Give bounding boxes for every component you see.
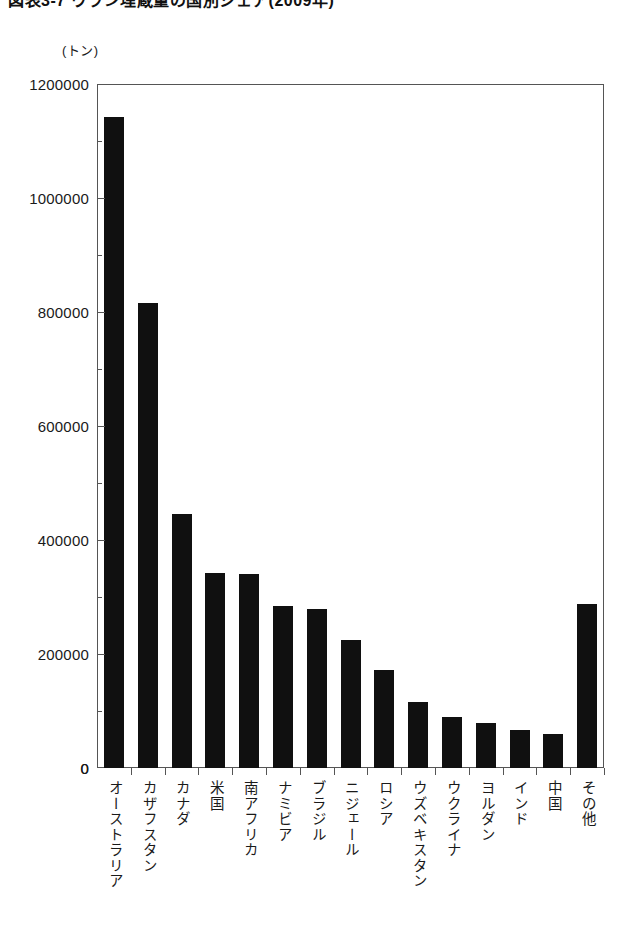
x-axis-tick-mark (469, 768, 470, 775)
bar (341, 640, 361, 768)
x-axis-tick-mark (266, 768, 267, 775)
x-axis-tick-mark (604, 768, 605, 775)
y-axis-minor-tick-mark (97, 369, 102, 370)
x-axis-tick-label: ブラジル (309, 780, 324, 842)
bar (543, 734, 563, 768)
x-axis-tick-label: ヨルダン (478, 780, 493, 842)
bar (138, 303, 158, 768)
x-axis-tick-mark (198, 768, 199, 775)
x-axis-tick-label: オーストラリア (107, 780, 122, 889)
y-axis-minor-tick-mark (97, 141, 102, 142)
x-axis-tick-label: カザフスタン (140, 780, 155, 873)
x-axis-tick-label: その他 (580, 780, 595, 827)
x-axis-tick-mark (503, 768, 504, 775)
x-axis-tick-mark (570, 768, 571, 775)
y-axis-minor-tick-mark (97, 255, 102, 256)
bar (205, 573, 225, 768)
bar (577, 604, 597, 768)
bar (442, 717, 462, 768)
x-axis-tick-mark (367, 768, 368, 775)
x-axis-tick-label: 米国 (208, 780, 223, 811)
x-axis-tick-mark (401, 768, 402, 775)
x-axis-tick-mark (300, 768, 301, 775)
x-axis-tick-label: インド (512, 780, 527, 827)
y-axis-minor-tick-mark (97, 483, 102, 484)
y-axis-tick-mark (97, 312, 105, 313)
bar (408, 702, 428, 768)
bar (172, 514, 192, 768)
bar (104, 117, 124, 769)
x-axis-tick-label: ニジェール (343, 780, 358, 858)
y-axis-tick-mark (97, 654, 105, 655)
x-axis-tick-mark (536, 768, 537, 775)
y-axis-tick-mark (97, 198, 105, 199)
x-axis-tick-mark (334, 768, 335, 775)
x-axis-tick-label: カナダ (174, 780, 189, 827)
bar (307, 609, 327, 768)
x-axis-tick-mark (232, 768, 233, 775)
x-axis-tick-mark (165, 768, 166, 775)
bars-layer: オーストラリアカザフスタンカナダ米国南アフリカナミビアブラジルニジェールロシアウ… (0, 0, 632, 946)
x-axis-tick-label: ウズベキスタン (411, 780, 426, 889)
bar (510, 730, 530, 768)
x-axis-tick-label: ロシア (377, 780, 392, 827)
bar (476, 723, 496, 768)
y-axis-tick-mark (97, 540, 105, 541)
bar (239, 574, 259, 768)
bar (273, 606, 293, 768)
y-axis-minor-tick-mark (97, 711, 102, 712)
y-axis-tick-mark (97, 426, 105, 427)
x-axis-tick-label: ウクライナ (445, 780, 460, 858)
bar (374, 670, 394, 768)
x-axis-tick-label: 南アフリカ (242, 780, 257, 858)
x-axis-tick-label: 中国 (546, 780, 561, 811)
x-axis-tick-label: ナミビア (276, 780, 291, 842)
x-axis-tick-mark (131, 768, 132, 775)
y-axis-minor-tick-mark (97, 597, 102, 598)
x-axis-tick-mark (435, 768, 436, 775)
